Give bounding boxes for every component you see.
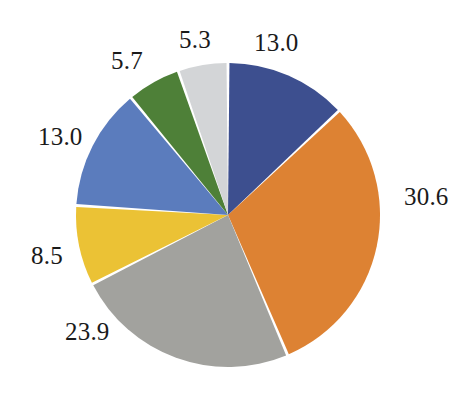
pie-slices-group — [75, 62, 381, 368]
slice-orange-value-label: 30.6 — [404, 184, 449, 209]
slice-navy-value-label: 13.0 — [254, 30, 299, 55]
pie-chart: 13.030.623.98.513.05.75.3 — [0, 0, 472, 397]
slice-yellow-value-label: 8.5 — [31, 243, 63, 268]
slice-blue-value-label: 13.0 — [38, 124, 83, 149]
slice-green-value-label: 5.7 — [111, 48, 143, 73]
slice-lightgray-value-label: 5.3 — [179, 27, 211, 52]
slice-gray-value-label: 23.9 — [65, 319, 110, 344]
